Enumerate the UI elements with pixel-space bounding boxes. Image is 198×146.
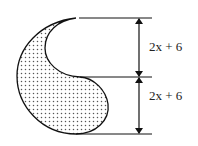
- upper-dimension-label: 2x + 6: [149, 39, 183, 54]
- lower-dimension-label: 2x + 6: [149, 88, 183, 103]
- shaded-region: [17, 18, 108, 134]
- yin-yang-diagram: 2x + 6 2x + 6: [0, 0, 198, 146]
